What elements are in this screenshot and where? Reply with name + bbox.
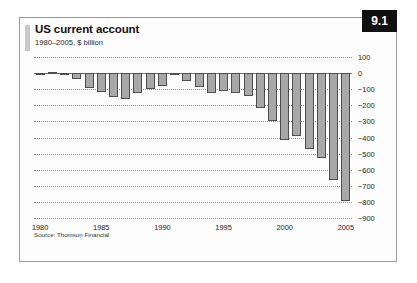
bar: [182, 73, 191, 81]
y-axis-tick-label: −800: [358, 197, 375, 206]
bar: [219, 73, 228, 91]
bar: [133, 73, 142, 92]
y-axis-tick-label: 100: [358, 53, 370, 62]
bar: [244, 73, 253, 96]
bar-series: [34, 57, 352, 218]
y-axis-tick-label: 0: [358, 69, 362, 78]
bar: [329, 73, 338, 180]
chart-figure: US current account 1980–2005, $ billion …: [19, 17, 397, 262]
bar: [317, 73, 326, 158]
y-axis-tick-label: −700: [358, 181, 375, 190]
bar: [146, 73, 155, 89]
y-axis-tick-label: −200: [358, 101, 375, 110]
y-axis-tick-label: −900: [358, 214, 375, 223]
source-note: Source: Thomson Financial: [34, 231, 109, 238]
bar: [292, 73, 301, 136]
bar: [268, 73, 277, 121]
bar: [72, 73, 81, 79]
x-axis-tick-label: 1990: [154, 223, 170, 232]
x-axis-tick-label: 1995: [215, 223, 231, 232]
y-axis-tick-label: −500: [358, 149, 375, 158]
bar: [207, 73, 216, 93]
bar: [305, 73, 314, 149]
bar: [60, 73, 69, 75]
chart-title: US current account: [35, 23, 139, 35]
bar: [158, 73, 167, 86]
figure-number-badge: 9.1: [362, 10, 397, 32]
bar: [170, 73, 179, 75]
y-axis-tick-label: −400: [358, 133, 375, 142]
y-axis-tick-label: −300: [358, 117, 375, 126]
gridline: [34, 218, 352, 219]
x-axis-tick-label: 2005: [338, 223, 354, 232]
title-accent-bar: [25, 25, 30, 51]
bar: [121, 73, 130, 99]
bar: [256, 73, 265, 107]
bar: [109, 73, 118, 97]
bar: [48, 72, 57, 74]
plot-area: 1000−100−200−300−400−500−600−700−800−900…: [34, 57, 352, 218]
bar: [97, 73, 106, 92]
bar: [280, 73, 289, 140]
bar: [231, 73, 240, 93]
bar: [341, 73, 350, 201]
x-axis-tick-label: 2000: [276, 223, 292, 232]
chart-subtitle: 1980–2005, $ billion: [35, 38, 103, 47]
y-axis-tick-label: −100: [358, 85, 375, 94]
bar: [36, 73, 45, 75]
bar: [85, 73, 94, 88]
bar: [195, 73, 204, 87]
y-axis-tick-label: −600: [358, 165, 375, 174]
